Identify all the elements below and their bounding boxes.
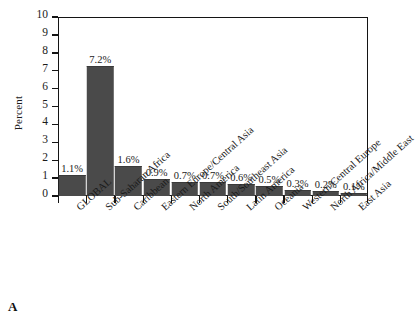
bar-slot: 0.2% (312, 17, 340, 196)
y-axis-tick-label: 1 (42, 170, 48, 182)
bar-value-label: 7.2% (89, 55, 111, 66)
bar-slot: 0.7% (171, 17, 199, 196)
y-axis-tick-label: 6 (42, 81, 48, 93)
y-axis-tick-label: 10 (37, 9, 49, 21)
x-axis-tick-mark (58, 196, 59, 203)
bar-value-label: 1.1% (61, 164, 83, 175)
bar-value-label: 1.6% (118, 155, 140, 166)
y-axis-tick-label: 3 (42, 134, 48, 146)
y-axis-tick-label: 4 (42, 116, 48, 128)
y-axis-tick-label: 9 (42, 27, 48, 39)
bar[interactable] (87, 66, 113, 196)
y-axis-tick-label: 7 (42, 63, 48, 75)
bar-slot: 1.6% (114, 17, 142, 196)
y-axis-title: Percent (12, 78, 24, 148)
bar[interactable] (59, 175, 85, 196)
bar-slot: 1.1% (58, 17, 86, 196)
y-axis-tick-label: 2 (42, 152, 48, 164)
y-axis-tick-label: 8 (42, 45, 48, 57)
bar-slot: 7.2% (86, 17, 114, 196)
y-axis-tick-label: 0 (42, 188, 48, 200)
panel-letter: A (8, 299, 17, 315)
y-axis-tick-label: 5 (42, 99, 48, 111)
